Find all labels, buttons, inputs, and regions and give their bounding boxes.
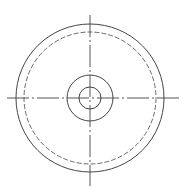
mechanical-drawing <box>0 0 184 190</box>
